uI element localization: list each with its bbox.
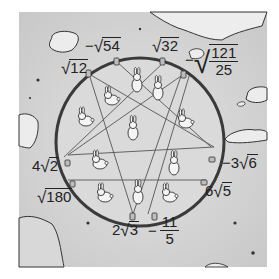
minus-sign: − — [148, 222, 157, 239]
denominator: 5 — [165, 231, 173, 247]
map-scene — [0, 0, 279, 279]
minus-sign: − — [85, 37, 94, 54]
radicand: 5 — [222, 182, 232, 198]
radicand: 3 — [129, 221, 139, 237]
radicand: 6 — [247, 154, 257, 170]
label-2-sqrt-3: 2√3 — [112, 221, 139, 239]
label-neg-3-sqrt-6: −3√6 — [222, 154, 258, 172]
label-neg-sqrt-121-25: −√12125 — [185, 44, 238, 78]
numerator: 121 — [209, 45, 238, 62]
radicand: 2 — [49, 157, 59, 173]
radicand: 54 — [102, 37, 121, 53]
numerator: 11 — [160, 214, 180, 231]
label-4-sqrt-2: 4√2 — [32, 157, 59, 175]
radicand: 12 — [69, 59, 88, 75]
label-sqrt-32: √32 — [152, 37, 179, 55]
label-6-sqrt-5: 6√5 — [205, 182, 232, 200]
coefficient: 3 — [231, 154, 239, 171]
label-sqrt-180: √180 — [37, 188, 72, 206]
radicand: 32 — [160, 37, 179, 53]
radical-icon: √ — [194, 46, 210, 79]
minus-sign: − — [185, 51, 194, 68]
denominator: 25 — [215, 62, 232, 78]
label-sqrt-12: √12 — [61, 59, 88, 77]
radicand: 180 — [45, 188, 72, 204]
label-neg-sqrt-54: −√54 — [85, 37, 121, 55]
label-neg-11-5: −115 — [148, 214, 179, 247]
minus-sign: − — [222, 154, 231, 171]
